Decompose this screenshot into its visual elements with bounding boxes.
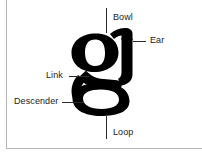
label-link: Link <box>46 70 63 81</box>
leader-line-loop <box>106 116 107 139</box>
typography-anatomy-diagram: Bowl Ear Link Descender Loop <box>0 0 202 157</box>
left-border-rule <box>6 0 7 149</box>
bottom-border-rule <box>6 148 202 149</box>
leader-line-descender <box>62 102 84 103</box>
label-bowl: Bowl <box>113 12 133 23</box>
leader-line-link <box>69 76 89 77</box>
letter-g-glyph <box>70 12 134 128</box>
label-ear: Ear <box>150 35 164 46</box>
leader-line-bowl <box>106 8 107 33</box>
label-descender: Descender <box>14 96 58 107</box>
label-loop: Loop <box>113 127 133 138</box>
leader-line-ear <box>133 41 146 42</box>
